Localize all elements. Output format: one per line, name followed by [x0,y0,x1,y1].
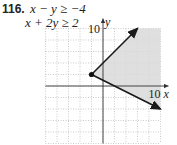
y-tick-label: 10 [88,22,100,36]
vertex-point [89,72,94,77]
graph: 10 10 y x [0,0,177,145]
x-axis-label: x [163,87,170,101]
y-axis-label: y [104,15,111,29]
x-tick-label: 10 [149,87,161,101]
